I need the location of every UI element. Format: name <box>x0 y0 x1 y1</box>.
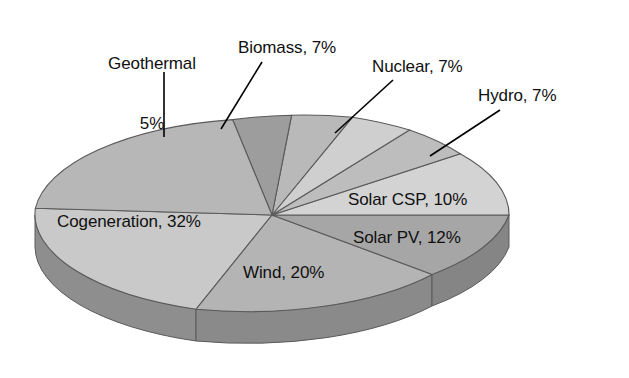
slice-label-geothermal: Geothermal 5% <box>82 14 222 174</box>
slice-label-geothermal-line2: 5% <box>82 114 222 134</box>
slice-label-solar-csp: Solar CSP, 10% <box>348 190 467 210</box>
slice-label-wind: Wind, 20% <box>243 263 324 283</box>
slice-label-hydro: Hydro, 7% <box>478 86 556 106</box>
slice-label-geothermal-line1: Geothermal <box>82 54 222 74</box>
slice-label-nuclear: Nuclear, 7% <box>372 57 463 77</box>
slice-label-cogeneration: Cogeneration, 32% <box>57 212 201 232</box>
leader-line-hydro <box>430 110 500 156</box>
slice-label-biomass: Biomass, 7% <box>238 38 336 58</box>
slice-label-solar-pv: Solar PV, 12% <box>353 228 461 248</box>
pie-chart: Geothermal 5% Biomass, 7% Nuclear, 7% Hy… <box>0 0 629 378</box>
